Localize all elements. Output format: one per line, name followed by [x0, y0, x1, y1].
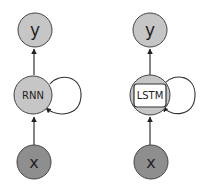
input-node: x [17, 145, 51, 179]
input-label: x [146, 153, 155, 172]
output-label: y [30, 20, 40, 40]
lstm-diagram: y LSTM x [130, 13, 195, 179]
rnn-diagram: y RNN x [14, 13, 81, 179]
input-node: x [134, 145, 168, 179]
cell-label: RNN [22, 90, 44, 101]
output-label: y [145, 20, 155, 40]
cell-label: LSTM [137, 90, 164, 101]
output-node: y [133, 13, 167, 47]
input-label: x [29, 153, 38, 172]
rnn-vs-lstm-diagram: y RNN x y LSTM [0, 0, 209, 189]
lstm-cell-node: LSTM [130, 75, 170, 115]
rnn-cell-node: RNN [14, 76, 52, 114]
output-node: y [18, 13, 52, 47]
